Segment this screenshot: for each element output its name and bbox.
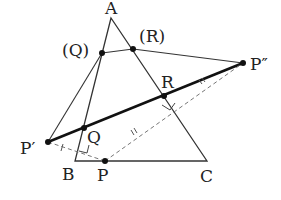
line-ralt-p2 — [133, 49, 243, 63]
tick-mark-single — [61, 144, 63, 151]
dashed-p-p2 — [105, 63, 243, 161]
label-p: P — [97, 165, 108, 185]
line-qalt-ralt — [102, 49, 133, 53]
label-r: R — [161, 72, 175, 92]
label-p1: P′ — [20, 138, 35, 158]
label-q: Q — [87, 127, 101, 147]
label-c: C — [200, 166, 213, 186]
label-a: A — [104, 0, 118, 18]
label-p2: P″ — [250, 54, 268, 74]
tick-mark-double-a — [131, 130, 134, 135]
point-ralt — [130, 46, 136, 52]
label-qalt: (Q) — [62, 40, 89, 60]
point-p2 — [240, 60, 246, 66]
label-b: B — [62, 164, 75, 184]
point-r — [161, 93, 167, 99]
label-ralt: (R) — [139, 26, 165, 46]
geometry-diagram: A B C P P′ P″ Q R (Q) (R) — [0, 0, 281, 200]
tick-mark-double-b — [134, 128, 137, 133]
point-p — [102, 158, 108, 164]
line-p1-p2-bold — [48, 63, 243, 142]
point-p1 — [45, 139, 51, 145]
point-qalt — [99, 50, 105, 56]
